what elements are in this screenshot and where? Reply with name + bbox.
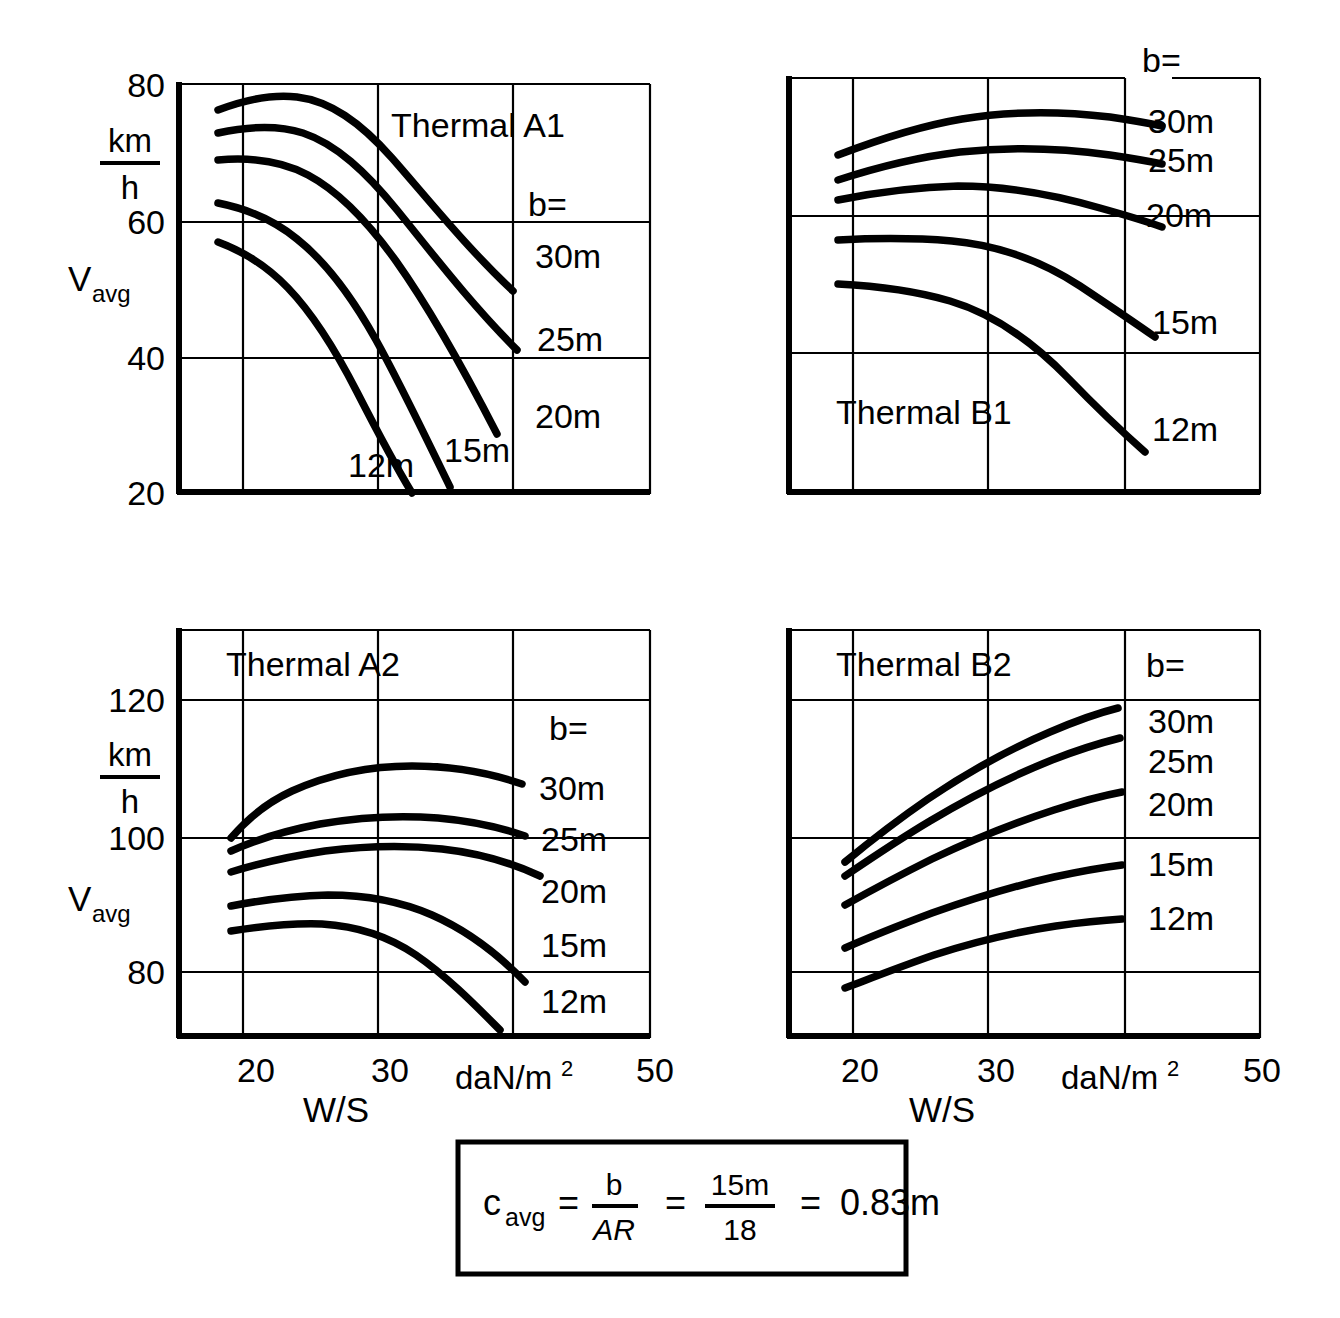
y-unit-denominator-a1: h: [121, 169, 139, 206]
y-tick-a1-20: 20: [127, 474, 165, 512]
formula-lhs-sub: avg: [505, 1203, 545, 1231]
legend-header-b1: b=: [1142, 41, 1181, 79]
y-axis-name-a1: V avg: [68, 259, 131, 307]
panel-thermal-b2: Thermal B2 b= 30m 25m 20m 15m 12m 20 30 …: [787, 628, 1281, 1129]
formula-box: c avg = b AR = 15m 18 = 0.83m: [458, 1142, 940, 1274]
curve-a2-20m: [231, 847, 540, 876]
legend-b2-20m: 20m: [1148, 785, 1214, 823]
y-tick-a1-40: 40: [127, 339, 165, 377]
legend-b2-30m: 30m: [1148, 702, 1214, 740]
y-axis-name-a1-sub: avg: [92, 280, 131, 307]
legend-a2-20m: 20m: [541, 872, 607, 910]
x-tick-b2-50: 50: [1243, 1051, 1281, 1089]
legend-header-a2: b=: [549, 709, 588, 747]
legend-b1-20m: 20m: [1146, 196, 1212, 234]
legend-b1-30m: 30m: [1148, 102, 1214, 140]
y-axis-name-a1-main: V: [68, 259, 92, 298]
legend-a1-12m: 12m: [348, 446, 414, 484]
x-tick-b2-30: 30: [977, 1051, 1015, 1089]
y-unit-a1: km h: [100, 122, 160, 206]
formula-eq-3: =: [800, 1182, 821, 1223]
y-unit-numerator-a1: km: [108, 122, 152, 159]
x-unit-a2-exponent: 2: [561, 1056, 573, 1081]
x-unit-b2-text: daN/m: [1061, 1059, 1158, 1096]
formula-frac2-denominator: 18: [723, 1213, 756, 1246]
y-unit-a2: km h: [100, 736, 160, 820]
legend-a2-30m: 30m: [539, 769, 605, 807]
axis-frame-b2: [787, 628, 1260, 1038]
panel-title-a2: Thermal A2: [226, 645, 400, 683]
formula-frac1-denominator: AR: [591, 1213, 635, 1246]
x-unit-b2-exponent: 2: [1167, 1056, 1179, 1081]
legend-a2-12m: 12m: [541, 982, 607, 1020]
formula-eq-1: =: [558, 1182, 579, 1223]
curve-b2-25m: [845, 738, 1120, 876]
x-tick-a2-30: 30: [371, 1051, 409, 1089]
formula-frac2-numerator: 15m: [711, 1168, 769, 1201]
legend-b1-25m: 25m: [1148, 141, 1214, 179]
panel-thermal-a2: 120 100 80 km h V avg Thermal A2 b= 30m …: [68, 628, 674, 1129]
y-axis-name-a2-sub: avg: [92, 900, 131, 927]
legend-a1-25m: 25m: [537, 320, 603, 358]
x-unit-a2-text: daN/m: [455, 1059, 552, 1096]
figure-root: 80 60 40 20 km h V avg Thermal A1 b= 30m…: [0, 0, 1340, 1318]
curves-a2: [231, 766, 540, 1030]
legend-b2-25m: 25m: [1148, 742, 1214, 780]
legend-a1-15m: 15m: [444, 431, 510, 469]
grid-lines-b2: [787, 630, 1260, 1038]
legend-b1-12m: 12m: [1152, 410, 1218, 448]
curve-b2-15m: [845, 865, 1122, 948]
panel-title-a1: Thermal A1: [391, 106, 565, 144]
panel-thermal-b1: b= 30m 25m 20m 15m 12m Thermal B1: [787, 41, 1260, 494]
panel-title-b1: Thermal B1: [836, 393, 1012, 431]
x-tick-b2-20: 20: [841, 1051, 879, 1089]
legend-a2-15m: 15m: [541, 926, 607, 964]
curve-a2-12m: [231, 924, 500, 1030]
legend-header-b2: b=: [1146, 646, 1185, 684]
legend-b2-15m: 15m: [1148, 845, 1214, 883]
chart-figure: 80 60 40 20 km h V avg Thermal A1 b= 30m…: [0, 0, 1340, 1318]
y-tick-a2-100: 100: [108, 819, 165, 857]
y-tick-a2-80: 80: [127, 953, 165, 991]
x-axis-name-b2: W/S: [909, 1090, 975, 1129]
formula-eq-2: =: [665, 1182, 686, 1223]
y-unit-denominator-a2: h: [121, 783, 139, 820]
y-tick-a1-60: 60: [127, 203, 165, 241]
x-tick-a2-50: 50: [636, 1051, 674, 1089]
y-axis-name-a2-main: V: [68, 879, 92, 918]
curves-b2: [845, 708, 1122, 988]
legend-a2-25m: 25m: [541, 820, 607, 858]
curve-b1-20m: [838, 186, 1162, 227]
y-axis-name-a2: V avg: [68, 879, 131, 927]
x-tick-a2-20: 20: [237, 1051, 275, 1089]
x-unit-b2: daN/m 2: [1061, 1056, 1179, 1096]
x-axis-name-a2: W/S: [303, 1090, 369, 1129]
legend-b1-15m: 15m: [1152, 303, 1218, 341]
panel-title-b2: Thermal B2: [836, 645, 1012, 683]
legend-b2-12m: 12m: [1148, 899, 1214, 937]
curve-b1-25m: [838, 149, 1162, 180]
x-unit-a2: daN/m 2: [455, 1056, 573, 1096]
y-tick-a1-80: 80: [127, 66, 165, 104]
legend-header-a1: b=: [528, 185, 567, 223]
legend-a1-20m: 20m: [535, 397, 601, 435]
legend-a1-30m: 30m: [535, 237, 601, 275]
y-unit-numerator-a2: km: [108, 736, 152, 773]
formula-lhs: c: [483, 1182, 501, 1223]
formula-frac1-numerator: b: [606, 1168, 623, 1201]
panel-thermal-a1: 80 60 40 20 km h V avg Thermal A1 b= 30m…: [68, 66, 650, 512]
y-tick-a2-120: 120: [108, 681, 165, 719]
formula-result: 0.83m: [840, 1182, 940, 1223]
